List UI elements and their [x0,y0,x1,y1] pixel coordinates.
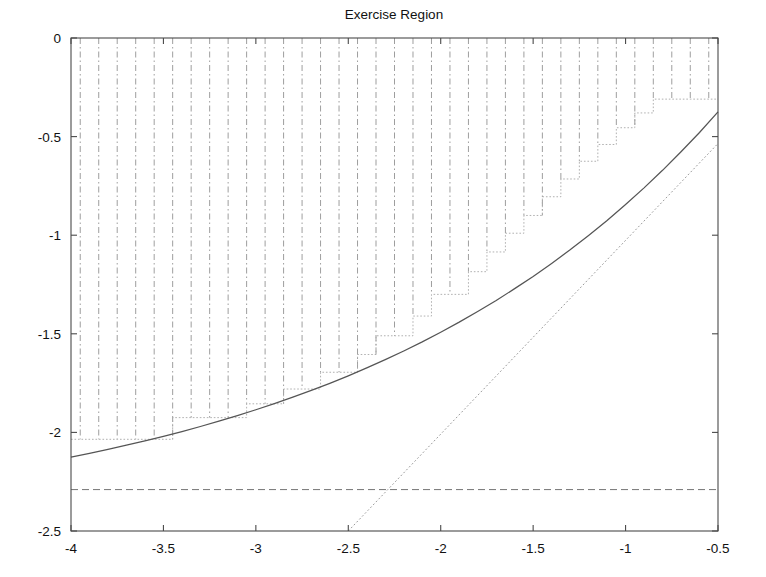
y-tick-label: -0.5 [38,130,61,145]
x-tick-label: -0.5 [706,541,729,556]
x-axis-ticks: -4-3.5-3-2.5-2-1.5-1-0.5 [65,38,730,556]
x-tick-label: -3.5 [152,541,175,556]
payoff-line [348,144,718,531]
y-tick-label: -1.5 [38,327,61,342]
chart-title-group: Exercise Region [345,7,443,22]
x-tick-label: -2 [435,541,447,556]
x-tick-label: -2.5 [337,541,360,556]
y-tick-label: -2 [49,425,61,440]
exercise-region-chart: Exercise Region -4-3.5-3-2.5-2-1.5-1-0.5… [0,0,766,577]
chart-figure: Exercise Region -4-3.5-3-2.5-2-1.5-1-0.5… [0,0,766,577]
x-tick-label: -3 [250,541,262,556]
x-tick-label: -4 [65,541,77,556]
x-tick-label: -1.5 [522,541,545,556]
y-tick-label: -1 [49,228,61,243]
x-tick-label: -1 [620,541,632,556]
y-tick-label: 0 [53,31,61,46]
page-title: Exercise Region [345,7,443,22]
exercise-region-hatching [80,38,709,439]
y-tick-label: -2.5 [38,524,61,539]
